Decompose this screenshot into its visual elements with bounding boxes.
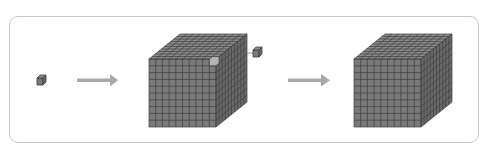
large-cube-with-detached-unit-icon [149, 34, 247, 127]
arrow-right-icon [288, 74, 330, 87]
unit-cube-icon [37, 75, 46, 85]
complete-large-cube-icon [354, 34, 452, 127]
cube-assembly-diagram [0, 0, 489, 163]
detached-unit-cube-icon [247, 47, 262, 57]
arrow-right-icon [77, 74, 118, 87]
